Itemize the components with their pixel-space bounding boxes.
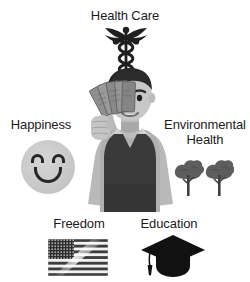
label-education: Education [130,216,208,231]
smiley-eye-left [31,154,44,163]
smiley-mouth [34,167,62,183]
man-holding-money-icon [74,64,186,214]
label-health-care: Health Care [0,8,250,23]
graduation-cap-icon [140,233,206,279]
label-happiness: Happiness [2,117,80,132]
smiley-face-icon [21,140,75,194]
us-flag-icon [48,239,108,276]
infographic-canvas: Health Care Happine [0,0,250,282]
label-freedom: Freedom [40,216,118,231]
smiley-eye-right [52,154,65,163]
